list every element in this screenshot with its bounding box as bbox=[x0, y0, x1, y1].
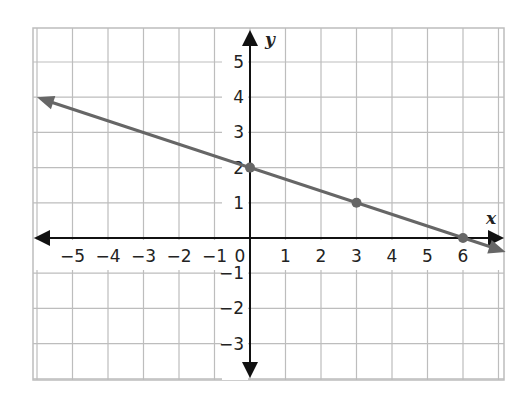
y-tick-label: −3 bbox=[219, 334, 244, 354]
y-tick-label: −1 bbox=[219, 263, 244, 283]
x-tick-label: −4 bbox=[95, 246, 120, 266]
y-tick-label: 5 bbox=[233, 52, 244, 72]
y-tick-label: 4 bbox=[233, 87, 244, 107]
y-tick-label: 1 bbox=[233, 193, 244, 213]
axes bbox=[34, 30, 504, 378]
line-left-arrow-icon bbox=[37, 96, 55, 109]
data-point bbox=[458, 233, 468, 243]
data-point bbox=[352, 198, 362, 208]
grid-border bbox=[33, 28, 504, 380]
x-tick-label: 2 bbox=[316, 246, 327, 266]
x-tick-label: 5 bbox=[422, 246, 433, 266]
y-tick-label: 3 bbox=[233, 122, 244, 142]
coordinate-plane: −5−4−3−2−1012345654321−1−2−3 x y bbox=[0, 0, 528, 408]
x-tick-label: 4 bbox=[387, 246, 398, 266]
x-tick-label: −3 bbox=[131, 246, 156, 266]
x-tick-label: 1 bbox=[280, 246, 291, 266]
x-axis-label: x bbox=[485, 208, 497, 228]
y-axis-up-arrow-icon bbox=[242, 30, 258, 46]
x-tick-label: 6 bbox=[458, 246, 469, 266]
x-tick-label: −5 bbox=[60, 246, 85, 266]
grid bbox=[33, 28, 504, 380]
data-point bbox=[245, 163, 255, 173]
x-tick-label: −2 bbox=[166, 246, 191, 266]
y-tick-label: −2 bbox=[219, 298, 244, 318]
series-line bbox=[37, 96, 506, 254]
y-tick-label: 2 bbox=[233, 158, 244, 178]
x-tick-label: 3 bbox=[351, 246, 362, 266]
line-segment bbox=[47, 101, 496, 249]
y-axis-label: y bbox=[264, 29, 276, 49]
